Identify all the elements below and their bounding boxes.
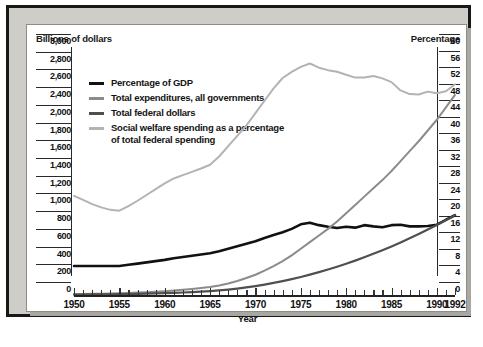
x-tick-1962: [183, 290, 184, 295]
x-tick-1983: [373, 290, 374, 295]
x-tick-1977: [319, 290, 320, 295]
x-axis-title: Year: [27, 313, 468, 324]
figure-frame: Billions of dollars Percentage 3,0002,80…: [6, 5, 471, 317]
plot-area: Billions of dollars Percentage 3,0002,80…: [27, 25, 468, 313]
x-tick-1987: [410, 290, 411, 295]
x-tick-label-1950: 1950: [63, 299, 84, 310]
x-tick-1954: [110, 290, 111, 295]
x-tick-1953: [101, 290, 102, 295]
x-tick-1974: [292, 290, 293, 295]
x-tick-label-1992: 1992: [444, 299, 465, 310]
x-tick-label-1960: 1960: [154, 299, 175, 310]
x-tick-1960: [165, 288, 166, 295]
x-tick-1976: [310, 290, 311, 295]
x-tick-1955: [119, 288, 120, 295]
x-tick-1979: [337, 290, 338, 295]
x-tick-label-1980: 1980: [336, 299, 357, 310]
x-tick-1959: [156, 290, 157, 295]
x-tick-label-1955: 1955: [109, 299, 130, 310]
x-tick-1951: [83, 290, 84, 295]
x-axis-line: [74, 295, 455, 297]
x-tick-label-1965: 1965: [200, 299, 221, 310]
series-line-percentage-of-gdp: [74, 215, 455, 266]
x-tick-label-1970: 1970: [245, 299, 266, 310]
x-tick-1969: [246, 290, 247, 295]
x-tick-1985: [392, 288, 393, 295]
x-tick-1988: [419, 290, 420, 295]
x-tick-1980: [346, 288, 347, 295]
x-tick-1991: [446, 290, 447, 295]
x-tick-1986: [401, 290, 402, 295]
series-line-social-welfare-spending-as-a-percentage-of-total-federal-spending: [74, 64, 455, 211]
x-tick-1970: [255, 288, 256, 295]
x-tick-1973: [283, 290, 284, 295]
x-tick-1956: [128, 290, 129, 295]
x-tick-1972: [274, 290, 275, 295]
x-tick-1968: [237, 290, 238, 295]
x-tick-1967: [228, 290, 229, 295]
series-line-total-federal-dollars: [74, 215, 455, 294]
figure-container: Billions of dollars Percentage 3,0002,80…: [0, 0, 483, 347]
chart-panel: Billions of dollars Percentage 3,0002,80…: [26, 24, 467, 312]
x-tick-1982: [364, 290, 365, 295]
x-tick-1964: [201, 290, 202, 295]
x-tick-1989: [428, 290, 429, 295]
chart-series-canvas: [27, 25, 468, 313]
x-tick-label-1985: 1985: [381, 299, 402, 310]
x-tick-1981: [355, 290, 356, 295]
x-tick-1952: [92, 290, 93, 295]
x-tick-1958: [147, 290, 148, 295]
x-tick-1966: [219, 290, 220, 295]
x-tick-1965: [210, 288, 211, 295]
x-tick-1971: [265, 290, 266, 295]
x-tick-1984: [382, 290, 383, 295]
x-tick-1957: [138, 290, 139, 295]
x-tick-label-1975: 1975: [290, 299, 311, 310]
x-tick-1978: [328, 290, 329, 295]
x-tick-1963: [192, 290, 193, 295]
x-tick-1950: [74, 288, 75, 295]
x-tick-1961: [174, 290, 175, 295]
x-tick-1990: [437, 288, 438, 295]
x-tick-1992: [455, 288, 456, 295]
x-tick-1975: [301, 288, 302, 295]
